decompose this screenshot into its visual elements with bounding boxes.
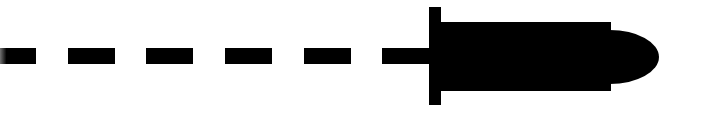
bullet-crossbar [429, 7, 441, 105]
bullet-nose [610, 30, 659, 84]
bullet-icon [0, 0, 705, 113]
bullet-stub [382, 48, 429, 64]
trail-dash [68, 48, 115, 64]
bullet-body [441, 22, 611, 91]
dashed-trail [0, 48, 351, 64]
trail-dash [146, 48, 193, 64]
bullet-graphic [0, 0, 705, 113]
trail-dash [225, 48, 272, 64]
trail-dash [304, 48, 351, 64]
trail-dash [0, 48, 36, 64]
